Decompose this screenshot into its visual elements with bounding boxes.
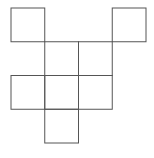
square-0: [11, 8, 45, 42]
square-5: [45, 76, 79, 110]
square-3: [79, 42, 113, 76]
square-net-diagram: [0, 0, 154, 158]
squares-group: [11, 8, 146, 143]
square-4: [11, 76, 45, 110]
square-2: [45, 42, 79, 76]
square-7: [45, 109, 79, 143]
square-6: [79, 76, 113, 110]
square-1: [112, 8, 146, 42]
